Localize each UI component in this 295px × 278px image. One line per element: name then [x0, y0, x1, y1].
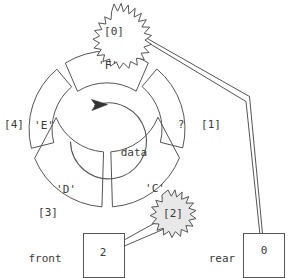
clockwise-arrow-icon	[71, 100, 147, 179]
ring-slot-0-value: 'F'	[98, 60, 118, 71]
ring-slot-3-value: 'D'	[56, 184, 76, 195]
diagram-canvas: 'F' ? 'C' 'D' 'E' [0] [1] [2] [3] [4] da…	[0, 0, 295, 278]
front-pointer-label: front	[28, 253, 61, 264]
diagram-vector-layer	[0, 0, 295, 278]
ring-sector-1[interactable]	[142, 69, 185, 148]
front-pointer-value: 2	[100, 247, 107, 258]
ring-slot-2-value: 'C'	[145, 183, 165, 194]
ring-sector-4[interactable]	[29, 69, 72, 148]
ring-slot-0-index: [0]	[104, 26, 124, 37]
ring-slot-1-index: [1]	[201, 119, 221, 130]
ring-slot-2-index: [2]	[163, 208, 183, 219]
rear-pointer-value: 0	[261, 245, 268, 256]
rear-pointer-arrow	[129, 27, 263, 241]
ring-slot-3-index: [3]	[38, 207, 58, 218]
rear-pointer-label: rear	[209, 253, 236, 264]
ring-slot-4-index: [4]	[4, 119, 24, 130]
ring-slot-4-value: 'E'	[34, 120, 54, 131]
center-data-label: data	[121, 147, 148, 158]
ring-slot-1-value: ?	[178, 119, 185, 130]
